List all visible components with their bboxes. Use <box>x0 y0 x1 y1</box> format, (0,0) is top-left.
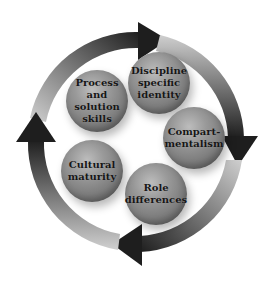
node-discipline-specific-identity: Discipline specific identity <box>128 52 190 114</box>
node-label: Discipline specific identity <box>131 65 187 101</box>
node-label: Cultural maturity <box>68 159 116 183</box>
node-process-solution-skills: Process and solution skills <box>66 70 128 132</box>
node-compartmentalism: Compart- mentalism <box>163 107 225 169</box>
node-label: Role differences <box>125 182 187 206</box>
node-cultural-maturity: Cultural maturity <box>61 140 123 202</box>
node-label: Process and solution skills <box>74 77 120 125</box>
cycle-arrows <box>0 0 272 281</box>
node-label: Compart- mentalism <box>164 126 223 150</box>
cycle-diagram: Process and solution skills Discipline s… <box>0 0 272 281</box>
node-role-differences: Role differences <box>125 163 187 225</box>
